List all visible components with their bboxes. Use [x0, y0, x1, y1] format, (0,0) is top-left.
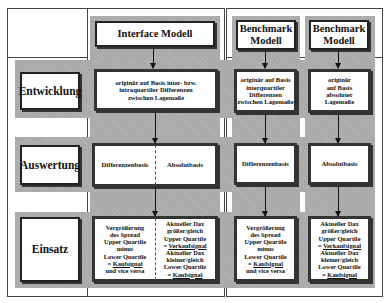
interface-entwicklung-line1: originär auf Basis inter- bzw.	[115, 79, 197, 86]
einsatz-text: und vice versa	[246, 267, 285, 274]
benchmark2-entwicklung-line4: Lagemaße	[325, 98, 354, 105]
einsatz-text: und vice versa	[105, 267, 144, 274]
einsatz-text: kleiner/gleich	[321, 256, 358, 263]
einsatz-text: Lower Quartile	[244, 253, 286, 260]
row-label-auswertung-text: Auswertung	[20, 159, 80, 172]
einsatz-text: Upper Quartile	[164, 235, 206, 242]
header-benchmark-modell-2: Benchmark Modell	[309, 20, 369, 50]
header-benchmark2-line1: Benchmark	[313, 23, 366, 35]
interface-einsatz-left: Vergrößerung des Spread Upper Quartile m…	[95, 219, 155, 279]
arrow-down-icon	[155, 113, 156, 143]
header-row-divider-left	[7, 57, 87, 58]
interface-entwicklung-line3: zwischen Lagemaße	[128, 94, 184, 101]
einsatz-text: Aktueller Dax	[320, 249, 358, 256]
header-benchmark1-line2: Modell	[250, 35, 282, 47]
benchmark2-auswertung-text: Absolutbasis	[322, 160, 358, 167]
interface-einsatz-divider	[155, 218, 156, 280]
arrow-down-icon	[338, 115, 339, 143]
benchmark1-entwicklung-line4: zwischen Lagemaße	[237, 98, 293, 105]
benchmark2-entwicklung-line1: originär	[328, 76, 351, 83]
einsatz-text: Aktueller Dax	[166, 249, 204, 256]
kaufsignal-text: Kaufsignal	[113, 260, 143, 267]
verkaufsignal-text: Verkaufsignal	[169, 242, 207, 249]
row-label-einsatz-text: Einsatz	[32, 243, 68, 256]
header-benchmark2-line2: Modell	[323, 35, 355, 47]
benchmark1-auswertung-box: Differenzenbasis	[234, 143, 297, 185]
einsatz-signal-line: = Kaufsignal	[107, 260, 142, 267]
benchmark1-entwicklung-line2: interquartiler	[246, 84, 285, 91]
arrow-down-icon	[265, 115, 266, 143]
kaufsignal-text: Kaufsignal	[253, 260, 283, 267]
benchmark1-entwicklung-line3: Differenzen	[249, 91, 282, 98]
benchmark2-auswertung-box: Absolutbasis	[308, 143, 371, 185]
benchmark1-einsatz-box: Vergrößerung des Spread Upper Quartile m…	[234, 216, 297, 282]
header-interface-text: Interface Modell	[118, 28, 193, 40]
arrow-down-icon	[265, 52, 266, 68]
einsatz-text: minus	[257, 245, 274, 252]
kaufsignal-text: Kaufsignal	[173, 271, 203, 278]
interface-auswertung-right: Absolutbasis	[155, 146, 215, 184]
einsatz-signal-line: = Verkaufsignal	[318, 242, 361, 249]
einsatz-signal-line: = Verkaufsignal	[163, 242, 206, 249]
verkaufsignal-text: Verkaufsignal	[323, 242, 361, 249]
einsatz-text: größer/gleich	[167, 227, 203, 234]
einsatz-signal-line: = Kaufsignal	[248, 260, 283, 267]
benchmark1-entwicklung-box: originär auf Basis interquartiler Differ…	[234, 69, 297, 113]
einsatz-signal-line: = Kaufsignal	[322, 271, 357, 278]
benchmark2-entwicklung-box: originär auf Basis absoluter Lagemaße	[308, 69, 371, 113]
einsatz-text: minus	[117, 245, 134, 252]
einsatz-text: Vergrößerung	[246, 224, 284, 231]
einsatz-text: größer/gleich	[321, 227, 357, 234]
row-label-entwicklung: Entwicklung	[20, 72, 80, 110]
interface-auswertung-left: Differenzenbasis	[95, 146, 155, 184]
interface-entwicklung-box: originär auf Basis inter- bzw. intraquar…	[94, 69, 218, 111]
interface-auswertung-divider	[155, 145, 156, 185]
interface-einsatz-right: Aktueller Dax größer/gleich Upper Quarti…	[155, 219, 215, 279]
arrow-down-icon	[265, 187, 266, 216]
row-label-entwicklung-text: Entwicklung	[19, 85, 82, 98]
einsatz-text: Upper Quartile	[245, 238, 287, 245]
auswertung-absolutbasis: Absolutbasis	[167, 161, 203, 168]
auswertung-differenzenbasis: Differenzenbasis	[102, 161, 149, 168]
arrow-down-icon	[338, 187, 339, 216]
row-label-einsatz: Einsatz	[20, 217, 80, 282]
header-benchmark-modell-1: Benchmark Modell	[236, 20, 296, 50]
einsatz-text: Aktueller Dax	[166, 220, 204, 227]
einsatz-text: Vergrößerung	[106, 224, 144, 231]
header-interface-modell: Interface Modell	[95, 21, 215, 47]
kaufsignal-text: Kaufsignal	[327, 271, 357, 278]
header-benchmark1-line1: Benchmark	[240, 23, 293, 35]
einsatz-text: Aktueller Dax	[320, 220, 358, 227]
arrow-down-icon	[153, 49, 154, 68]
benchmark2-entwicklung-line3: absoluter	[326, 91, 352, 98]
row-label-auswertung: Auswertung	[20, 145, 80, 185]
benchmark2-entwicklung-line2: auf Basis	[327, 84, 352, 91]
interface-entwicklung-line2: intraquartiler Differenzen	[119, 86, 193, 93]
einsatz-text: Lower Quartile	[318, 263, 360, 270]
einsatz-text: des Spread	[110, 231, 140, 238]
einsatz-text: des Spread	[251, 231, 281, 238]
benchmark2-einsatz-box: Aktueller Dax größer/gleich Upper Quarti…	[308, 216, 371, 282]
arrow-down-icon	[338, 52, 339, 68]
einsatz-text: Lower Quartile	[164, 263, 206, 270]
einsatz-text: kleiner/gleich	[167, 256, 204, 263]
einsatz-text: Upper Quartile	[319, 235, 361, 242]
einsatz-signal-line: = Kaufsignal	[167, 271, 202, 278]
arrow-down-icon	[155, 187, 156, 216]
benchmark1-entwicklung-line1: originär auf Basis	[240, 76, 290, 83]
benchmark1-auswertung-text: Differenzenbasis	[242, 160, 289, 167]
einsatz-text: Upper Quartile	[104, 238, 146, 245]
einsatz-text: Lower Quartile	[104, 253, 146, 260]
